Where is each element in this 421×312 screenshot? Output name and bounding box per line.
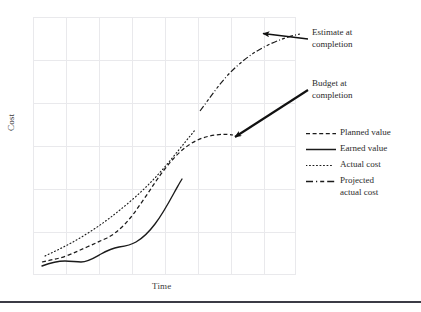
legend-label-projected-actual-cost: Projected actual cost xyxy=(340,174,378,198)
legend-swatch-dash-dot-dash-icon xyxy=(306,174,336,188)
annotation-budget-at-completion: Budget at completion xyxy=(312,78,353,101)
earned-value-management-chart: Cost Time Estimate at completion Budget … xyxy=(0,0,421,312)
legend-swatch-dotted-icon xyxy=(306,158,336,172)
x-axis-label: Time xyxy=(152,281,171,291)
y-axis-label: Cost xyxy=(6,114,16,131)
legend-label-planned-value: Planned value xyxy=(340,126,391,139)
legend-label-actual-cost: Actual cost xyxy=(340,158,381,171)
annotation-estimate-at-completion: Estimate at completion xyxy=(312,27,353,50)
legend-swatch-solid-icon xyxy=(306,142,336,156)
chart-legend: Planned value Earned value Actual cost xyxy=(306,126,418,200)
figure-bottom-rule xyxy=(0,301,421,303)
legend-swatch-dashed-icon xyxy=(306,126,336,140)
legend-item-actual-cost: Actual cost xyxy=(306,158,418,174)
legend-label-earned-value: Earned value xyxy=(340,142,387,155)
legend-item-planned-value: Planned value xyxy=(306,126,418,142)
legend-item-projected-actual-cost: Projected actual cost xyxy=(306,174,418,200)
legend-item-earned-value: Earned value xyxy=(306,142,418,158)
